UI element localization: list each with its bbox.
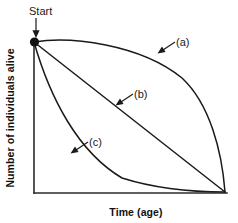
callout-arrow-c (71, 142, 89, 154)
survivorship-curve-figure: Start (a) (b) (c) Time (age) Number of i… (0, 0, 238, 223)
start-callout-arrow (32, 18, 39, 38)
callout-arrow-a (158, 42, 176, 54)
y-axis-title: Number of individuals alive (4, 48, 16, 187)
curve-label-a: (a) (176, 36, 189, 48)
figure-canvas: Start (a) (b) (c) Time (age) Number of i… (0, 0, 238, 223)
start-point-dot (30, 37, 39, 46)
start-label: Start (29, 5, 52, 17)
curve-label-b: (b) (134, 88, 147, 100)
curve-label-c: (c) (89, 136, 102, 148)
x-axis-title: Time (age) (109, 206, 162, 218)
curve-b-path (34, 42, 225, 192)
callout-arrow-b (116, 94, 134, 106)
